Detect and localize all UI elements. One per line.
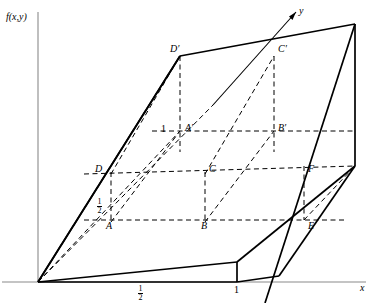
point-label-D-prime: D′ [170, 44, 179, 54]
tick-label-x-one: 1 [234, 285, 239, 295]
point-label-A-prime: A′ [185, 123, 193, 133]
edge-fold-right [237, 166, 355, 262]
dash-D-C-F [84, 166, 355, 174]
depth-axis [213, 12, 296, 105]
diagram-svg [0, 0, 379, 303]
point-label-C-prime: C′ [278, 44, 287, 54]
edge-origin-fold [38, 262, 237, 282]
point-label-B: B [201, 221, 207, 231]
dash-depth-C-Cprime [205, 56, 274, 174]
axis-label-y: y [299, 6, 303, 16]
half-denominator: 2 [97, 207, 102, 215]
point-label-D: D [95, 164, 102, 174]
tick-label-one-upper: 1 [161, 124, 166, 134]
point-label-F: F [308, 164, 314, 174]
dash-depth-A-Aprime [111, 131, 180, 222]
edge-right-foot [279, 166, 355, 276]
dash-depth-origin-Aprime [38, 131, 180, 282]
axis-label-x: x [360, 283, 364, 293]
point-label-C: C [209, 164, 216, 174]
x-half-denominator: 2 [138, 294, 143, 302]
figure-canvas: f(x,y) y x A B C D E F A′ B′ C′ D′ 1 1 2… [0, 0, 379, 303]
edge-Dprime-topright [180, 24, 355, 56]
dash-depth-B-Bprime [205, 131, 274, 222]
axis-group [2, 12, 366, 282]
edge-diagonal-left [38, 56, 180, 282]
half-numerator: 1 [97, 198, 102, 206]
tick-label-half-vertical: 1 2 [97, 198, 102, 214]
axis-label-f: f(x,y) [6, 12, 27, 22]
point-label-B-prime: B′ [278, 123, 286, 133]
dash-depth-E-right [304, 166, 355, 220]
point-label-E: E [308, 221, 314, 231]
point-label-A: A [106, 221, 112, 231]
x-half-numerator: 1 [138, 285, 143, 293]
tick-label-x-half: 1 2 [138, 285, 143, 301]
